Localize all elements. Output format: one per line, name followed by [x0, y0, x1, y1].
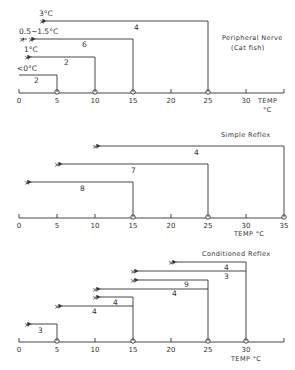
panel-conditioned-reflex: 0 5 10 15 20 25 30 TEMP °C Conditioned R…	[17, 250, 284, 363]
tick-label-25: 25	[204, 222, 213, 230]
count-label: 8	[80, 184, 85, 193]
count-label: 4	[172, 289, 177, 298]
tick-label-5: 5	[55, 346, 59, 354]
tick-label-5: 5	[55, 97, 59, 105]
tick-label-5: 5	[55, 222, 59, 230]
axis-label-temp: TEMP	[257, 97, 277, 105]
x-mark: ×	[130, 268, 136, 276]
endpoint-label: 0.5∼1.5°C	[19, 27, 58, 36]
count-label: 9	[184, 280, 189, 289]
count-label: 6	[82, 40, 87, 49]
tick-label-15: 15	[129, 97, 138, 105]
count-label: 3	[224, 272, 229, 281]
x-mark: ×	[24, 321, 30, 329]
panel-peripheral-nerve: 0 5 10 15 20 25 30 TEMP °C Peripheral Ne…	[17, 9, 284, 114]
x-mark: ×	[54, 303, 60, 311]
panel-title: Peripheral Nerve	[222, 34, 283, 42]
tick-label-15: 15	[129, 222, 138, 230]
count-label: 2	[34, 76, 39, 85]
panel-subtitle: (Cat fish)	[231, 44, 265, 52]
count-label: 4	[134, 23, 139, 32]
endpoint-label: 3°C	[39, 9, 53, 18]
tick-label-25: 25	[204, 346, 213, 354]
tick-label-25: 25	[204, 97, 213, 105]
x-mark: ×	[168, 259, 174, 267]
x-mark: ×	[92, 294, 98, 302]
panel-title: Simple Reflex	[221, 131, 271, 139]
tick-label-20: 20	[167, 97, 176, 105]
tick-label-10: 10	[91, 222, 100, 230]
x-mark: ×	[39, 18, 45, 26]
tick-label-10: 10	[91, 97, 100, 105]
x-mark: ×	[28, 36, 34, 44]
axis-label-temp: TEMP °C	[230, 355, 261, 363]
count-label: 3	[38, 326, 43, 335]
endpoint-label: <0°C	[17, 64, 37, 73]
tick-label-0: 0	[17, 346, 21, 354]
count-label: 2	[64, 58, 69, 67]
count-label: 7	[131, 166, 136, 175]
x-mark: ×	[54, 161, 60, 169]
tick-label-30: 30	[242, 97, 251, 105]
endpoint-label: 1°C	[24, 45, 38, 54]
tick-label-0: 0	[17, 222, 21, 230]
x-mark: ×	[92, 286, 98, 294]
tick-label-30: 30	[242, 222, 251, 230]
tick-label-10: 10	[91, 346, 100, 354]
tick-label-0: 0	[17, 97, 21, 105]
temperature-diagram: 0 5 10 15 20 25 30 TEMP °C Peripheral Ne…	[0, 0, 295, 370]
x-mark: ×	[24, 54, 30, 62]
count-label: 4	[92, 307, 97, 316]
tick-label-20: 20	[167, 346, 176, 354]
panel-title: Conditioned Reflex	[202, 250, 270, 258]
x-mark: ×	[24, 179, 30, 187]
axis-label-temp: TEMP °C	[233, 230, 264, 238]
tick-label-15: 15	[129, 346, 138, 354]
count-label: 4	[194, 148, 199, 157]
x-mark: ×	[130, 277, 136, 285]
tick-label-20: 20	[167, 222, 176, 230]
tick-label-30: 30	[242, 346, 251, 354]
x-mark: ×	[92, 143, 98, 151]
axis-label-unit: °C	[263, 106, 272, 114]
tick-label-35: 35	[280, 222, 289, 230]
panel-simple-reflex: 0 5 10 15 20 25 30 35 TEMP °C Simple Ref…	[17, 131, 289, 238]
